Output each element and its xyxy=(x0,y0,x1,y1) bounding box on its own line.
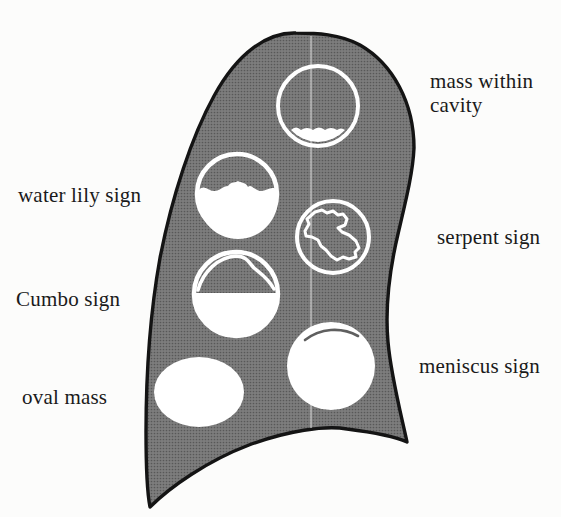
label-mass-within-cavity: mass within cavity xyxy=(430,70,552,117)
figure-lung-hydatid-signs: mass within cavity water lily sign serpe… xyxy=(0,0,561,517)
label-water-lily-sign: water lily sign xyxy=(18,184,141,208)
label-serpent-sign: serpent sign xyxy=(437,226,540,250)
cyst-meniscus xyxy=(287,322,375,410)
meniscus-body xyxy=(287,322,375,410)
cyst-oval-mass xyxy=(154,357,244,427)
label-meniscus-sign: meniscus sign xyxy=(419,355,540,379)
label-oval-mass: oval mass xyxy=(22,386,107,410)
label-cumbo-sign: Cumbo sign xyxy=(16,288,120,312)
